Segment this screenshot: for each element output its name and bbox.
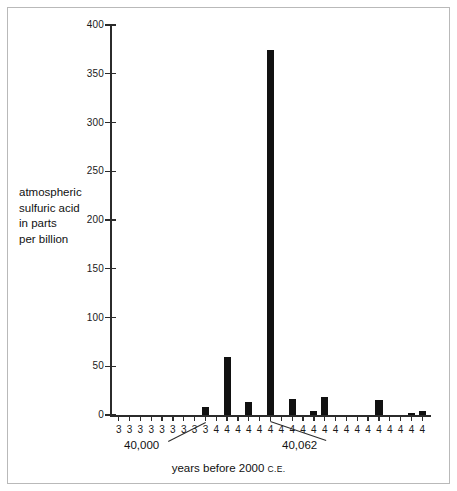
x-axis-tick	[118, 415, 119, 421]
y-axis-tick-label: 150	[78, 263, 104, 274]
x-axis-tick	[161, 415, 162, 421]
x-axis-tick	[357, 415, 358, 421]
x-axis-tick-label: 4	[213, 424, 219, 435]
annotation-40000: 40,000	[124, 439, 159, 452]
x-axis-tick-label: 4	[387, 424, 393, 435]
x-axis-tick-label: 4	[420, 424, 426, 435]
x-axis-tick	[248, 415, 249, 421]
y-axis-tick-label: 250	[78, 165, 104, 176]
y-axis-caption-line-4: per billion	[19, 232, 111, 248]
y-axis-tick-label: 200	[78, 214, 104, 225]
x-axis-tick	[313, 415, 314, 421]
bar	[408, 413, 415, 415]
x-axis-caption: years before 2000 C.E.	[0, 462, 457, 474]
y-axis-tick-label: 300	[78, 117, 104, 128]
y-axis-tick-label: 0	[78, 409, 104, 420]
x-axis-tick	[129, 415, 130, 421]
x-axis-tick-label: 4	[365, 424, 371, 435]
x-axis-tick	[422, 415, 423, 421]
x-axis-tick	[302, 415, 303, 421]
x-axis-tick-label: 4	[268, 424, 274, 435]
x-axis-tick-label: 4	[409, 424, 415, 435]
plot-area: 050100150200250300350400 333333333444444…	[110, 25, 431, 415]
y-axis-tick-label: 400	[78, 19, 104, 30]
x-axis-tick	[237, 415, 238, 421]
x-axis-caption-main: years before 2000	[172, 462, 265, 474]
x-axis-tick-label: 4	[311, 424, 317, 435]
bar	[310, 411, 317, 415]
x-axis-tick	[400, 415, 401, 421]
bar	[224, 357, 231, 415]
y-axis-tick-label: 50	[78, 360, 104, 371]
y-axis-tick-label: 350	[78, 68, 104, 79]
bars-layer	[110, 25, 431, 415]
x-axis-tick	[335, 415, 336, 421]
x-axis-tick	[140, 415, 141, 421]
x-axis-tick	[259, 415, 260, 421]
x-axis-tick-label: 4	[224, 424, 230, 435]
x-axis-tick	[226, 415, 227, 421]
x-axis-tick	[151, 415, 152, 421]
x-axis-tick	[205, 415, 206, 421]
x-axis-tick	[172, 415, 173, 421]
figure-root: atmospheric sulfuric acid in parts per b…	[0, 0, 457, 491]
x-axis-tick	[389, 415, 390, 421]
x-axis-tick-label: 3	[116, 424, 122, 435]
annotation-40062: 40,062	[282, 439, 317, 452]
bar	[289, 399, 296, 415]
x-axis-tick-label: 4	[376, 424, 382, 435]
x-axis-tick	[324, 415, 325, 421]
x-axis-tick-label: 4	[354, 424, 360, 435]
x-axis-tick	[216, 415, 217, 421]
x-axis-tick-label: 4	[344, 424, 350, 435]
y-axis-tick-label: 100	[78, 312, 104, 323]
y-axis-caption-line-1: atmospheric	[19, 185, 111, 201]
x-axis-tick	[194, 415, 195, 421]
x-axis-tick	[411, 415, 412, 421]
x-axis-caption-era: C.E.	[268, 464, 286, 474]
x-axis-tick-label: 4	[398, 424, 404, 435]
bar	[419, 411, 426, 415]
x-axis-tick	[281, 415, 282, 421]
x-axis-tick-label: 3	[138, 424, 144, 435]
x-axis-tick-label: 3	[203, 424, 209, 435]
x-axis-tick-label: 3	[127, 424, 133, 435]
x-axis-tick-label: 4	[333, 424, 339, 435]
x-axis-tick	[183, 415, 184, 421]
x-axis-tick-label: 4	[246, 424, 252, 435]
x-axis-tick-label: 4	[257, 424, 263, 435]
bar	[321, 397, 328, 415]
x-axis-tick-label: 4	[235, 424, 241, 435]
bar	[202, 407, 209, 415]
bar	[245, 402, 252, 415]
x-axis-tick-label: 3	[159, 424, 165, 435]
x-axis-tick	[378, 415, 379, 421]
x-axis-tick-label: 3	[148, 424, 154, 435]
bar	[267, 50, 274, 415]
x-axis-tick	[292, 415, 293, 421]
x-axis-tick	[346, 415, 347, 421]
x-axis-tick-label: 4	[322, 424, 328, 435]
x-axis-tick-label: 3	[170, 424, 176, 435]
x-axis-tick	[367, 415, 368, 421]
bar	[375, 400, 382, 415]
